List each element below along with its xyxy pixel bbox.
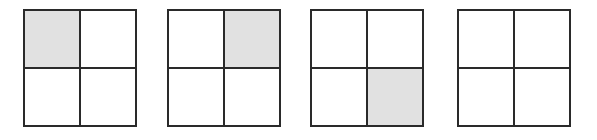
cell-tl [169, 11, 224, 68]
cell-tr [80, 11, 135, 68]
grid-1 [23, 9, 137, 127]
cell-br [224, 68, 279, 125]
cell-br [514, 68, 569, 125]
cell-br [80, 68, 135, 125]
cell-bl [312, 68, 367, 125]
cell-tl [459, 11, 514, 68]
cell-tl-shaded [25, 11, 80, 68]
cell-tr [514, 11, 569, 68]
cell-br-shaded [367, 68, 422, 125]
cell-bl [169, 68, 224, 125]
grid-4 [457, 9, 571, 127]
grid-2 [167, 9, 281, 127]
cell-bl [25, 68, 80, 125]
cell-tr-shaded [224, 11, 279, 68]
cell-tr [367, 11, 422, 68]
cell-bl [459, 68, 514, 125]
grid-3 [310, 9, 424, 127]
cell-tl [312, 11, 367, 68]
